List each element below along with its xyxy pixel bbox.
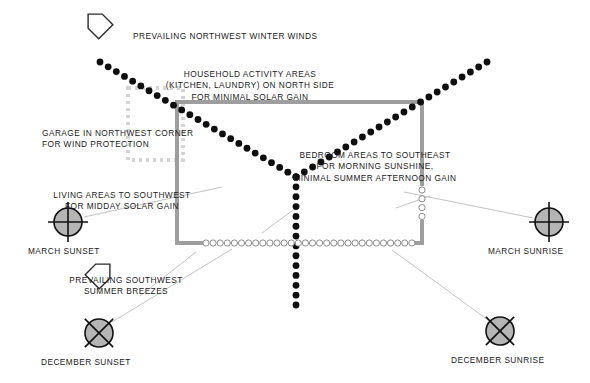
partition-dot bbox=[186, 111, 193, 118]
partition-dot bbox=[376, 124, 383, 131]
window-dot bbox=[288, 240, 294, 246]
bedroom-areas-southeast-label-line-2: FOR MORNING SUNSHINE, bbox=[293, 161, 456, 172]
window-dot bbox=[402, 240, 408, 246]
window-dot bbox=[380, 240, 386, 246]
living-areas-southwest-label: LIVING AREAS TO SOUTHWESTFOR MIDDAY SOLA… bbox=[53, 190, 190, 213]
window-dot bbox=[345, 240, 351, 246]
solar-orientation-diagram: PREVAILING NORTHWEST WINTER WINDSHOUSEHO… bbox=[0, 0, 590, 383]
partition-dot bbox=[409, 104, 416, 111]
partition-dot bbox=[459, 74, 466, 81]
partition-dot bbox=[178, 107, 185, 114]
bedroom-areas-southeast-label-line-1: BEDROOM AREAS TO SOUTHEAST bbox=[293, 150, 456, 161]
partition-dot bbox=[121, 73, 128, 80]
partition-dot bbox=[450, 79, 457, 86]
partition-dot bbox=[154, 92, 161, 99]
partition-dot bbox=[442, 84, 449, 91]
partition-dot bbox=[268, 159, 275, 166]
partition-dot bbox=[417, 99, 424, 106]
window-dot bbox=[224, 240, 230, 246]
partition-dot bbox=[113, 68, 120, 75]
window-dot bbox=[231, 240, 237, 246]
household-activity-areas-label: HOUSEHOLD ACTIVITY AREAS(KITCHEN, LAUNDR… bbox=[166, 69, 335, 103]
partition-dot bbox=[484, 59, 491, 66]
partition-dot bbox=[293, 193, 300, 200]
window-dot bbox=[331, 240, 337, 246]
partition-dot bbox=[105, 63, 112, 70]
partition-dot bbox=[367, 129, 374, 136]
partition-dot bbox=[97, 59, 104, 66]
window-dot bbox=[260, 240, 266, 246]
window-dot bbox=[238, 240, 244, 246]
window-dot bbox=[419, 213, 425, 219]
march-sunset-label: MARCH SUNSET bbox=[28, 246, 100, 257]
march-sunrise-label: MARCH SUNRISE bbox=[488, 246, 563, 257]
window-dot bbox=[352, 240, 358, 246]
garage-northwest-corner-label-line-1: GARAGE IN NORTHWEST CORNER bbox=[42, 128, 194, 139]
partition-dot bbox=[276, 164, 283, 171]
december-sunrise-marker bbox=[486, 317, 514, 345]
partition-dot bbox=[260, 154, 267, 161]
living-areas-southwest-label-line-1: LIVING AREAS TO SOUTHWEST bbox=[53, 190, 190, 201]
prevailing-southwest-summer-breezes-label-line-1: PREVAILING SOUTHWEST bbox=[69, 275, 183, 286]
household-activity-areas-label-line-2: (KITCHEN, LAUNDRY) ON NORTH SIDE bbox=[166, 80, 335, 91]
window-dot bbox=[419, 205, 425, 211]
window-dot bbox=[210, 240, 216, 246]
household-activity-areas-label-line-3: FOR MINIMAL SOLAR GAIN bbox=[166, 92, 335, 103]
window-dot bbox=[324, 240, 330, 246]
window-dot bbox=[253, 240, 259, 246]
garage-northwest-corner-label: GARAGE IN NORTHWEST CORNERFOR WIND PROTE… bbox=[42, 128, 194, 151]
partition-dot bbox=[293, 272, 300, 279]
window-dot bbox=[366, 240, 372, 246]
northwest-wind-arrow-icon bbox=[81, 7, 113, 39]
window-dot bbox=[359, 240, 365, 246]
household-activity-areas-label-line-1: HOUSEHOLD ACTIVITY AREAS bbox=[166, 69, 335, 80]
partition-dot bbox=[195, 116, 202, 123]
partition-dot bbox=[392, 114, 399, 121]
nw-winter-arrow-shape bbox=[81, 7, 113, 39]
window-dot bbox=[274, 240, 280, 246]
partition-dot bbox=[401, 109, 408, 116]
partition-dot bbox=[434, 89, 441, 96]
window-dot bbox=[317, 240, 323, 246]
window-dot bbox=[302, 240, 308, 246]
bedroom-areas-southeast-label-line-3: MINIMAL SUMMER AFTERNOON GAIN bbox=[293, 173, 456, 184]
partition-dot bbox=[129, 78, 136, 85]
prevailing-northwest-winter-winds-label-line-1: PREVAILING NORTHWEST WINTER WINDS bbox=[133, 31, 318, 42]
partition-dot bbox=[351, 139, 358, 146]
window-dot bbox=[338, 240, 344, 246]
partition-dot bbox=[293, 302, 300, 309]
window-dot bbox=[203, 240, 209, 246]
prevailing-northwest-winter-winds-label: PREVAILING NORTHWEST WINTER WINDS bbox=[133, 31, 318, 42]
partition-dot bbox=[293, 262, 300, 269]
partition-dot bbox=[293, 223, 300, 230]
partition-dot bbox=[203, 121, 210, 128]
garage-northwest-corner-label-line-2: FOR WIND PROTECTION bbox=[42, 139, 194, 150]
december-sunset-label: DECEMBER SUNSET bbox=[41, 357, 131, 368]
partition-dot bbox=[146, 87, 153, 94]
window-dot bbox=[419, 187, 425, 193]
december-sunset-marker bbox=[85, 319, 113, 347]
prevailing-southwest-summer-breezes-label: PREVAILING SOUTHWESTSUMMER BREEZES bbox=[69, 275, 183, 298]
december-sunrise-label: DECEMBER SUNRISE bbox=[451, 355, 544, 366]
window-dot bbox=[281, 240, 287, 246]
partition-dot bbox=[293, 252, 300, 259]
partition-dot bbox=[219, 130, 226, 137]
partition-dot bbox=[235, 140, 242, 147]
window-dot bbox=[373, 240, 379, 246]
window-dot bbox=[419, 196, 425, 202]
window-dot bbox=[409, 240, 415, 246]
window-dot bbox=[267, 240, 273, 246]
partition-dot bbox=[293, 282, 300, 289]
bedroom-areas-southeast-label: BEDROOM AREAS TO SOUTHEASTFOR MORNING SU… bbox=[293, 150, 456, 184]
partition-dot bbox=[211, 126, 218, 133]
partition-dot bbox=[293, 183, 300, 190]
partition-dot bbox=[244, 145, 251, 152]
window-dot bbox=[388, 240, 394, 246]
partition-dot bbox=[252, 150, 259, 157]
partition-dot bbox=[293, 213, 300, 220]
partition-dot bbox=[284, 169, 291, 176]
partition-dot bbox=[359, 134, 366, 141]
partition-dot bbox=[293, 292, 300, 299]
window-dot bbox=[217, 240, 223, 246]
window-dot bbox=[295, 240, 301, 246]
